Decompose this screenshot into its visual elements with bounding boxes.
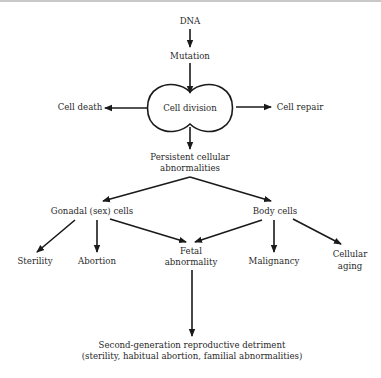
- node-aging-line1: Cellular: [333, 249, 368, 260]
- arrow-persistent-gonadal: [103, 177, 190, 201]
- arrow-gonadal-fetal: [110, 219, 186, 242]
- node-second-gen-line1: Second-generation reproductive detriment: [99, 340, 286, 351]
- node-persistent-line2: abnormalities: [160, 163, 220, 174]
- arrow-persistent-body: [190, 177, 271, 201]
- node-fetal-line1: Fetal: [180, 246, 202, 257]
- arrow-gonadal-sterility: [37, 220, 75, 252]
- arrow-body-fetal: [195, 220, 262, 242]
- node-fetal-line2: abnormality: [165, 257, 218, 268]
- node-abortion: Abortion: [78, 256, 116, 267]
- node-aging-line2: aging: [338, 261, 362, 272]
- node-cell-repair: Cell repair: [277, 102, 324, 113]
- arrow-body-aging: [293, 219, 341, 244]
- node-persistent-line1: Persistent cellular: [150, 152, 229, 163]
- node-cell-division: Cell division: [163, 103, 217, 114]
- node-body-cells: Body cells: [253, 206, 297, 217]
- node-cell-death: Cell death: [58, 102, 103, 113]
- node-mutation: Mutation: [170, 51, 210, 62]
- node-dna: DNA: [180, 16, 201, 27]
- node-second-gen-line2: (sterility, habitual abortion, familial …: [82, 351, 303, 362]
- node-malignancy: Malignancy: [249, 256, 300, 267]
- node-gonadal-cells: Gonadal (sex) cells: [51, 206, 133, 217]
- node-sterility: Sterility: [17, 256, 52, 267]
